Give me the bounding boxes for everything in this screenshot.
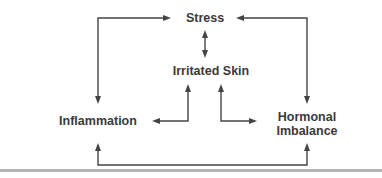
relationship-diagram: Stress Irritated Skin Inflammation Hormo… [0,0,382,178]
edge-stress-irritated-skin [202,30,208,58]
arrowhead-icon [163,15,171,21]
arrowhead-icon [218,84,224,92]
arrowhead-icon [202,30,208,38]
edge-inflammation-hormonal-imbalance [95,143,310,165]
arrowhead-icon [304,143,310,151]
arrowhead-icon [304,96,310,104]
edge-irritated-skin-hormonal-imbalance [218,84,257,124]
node-stress: Stress [186,11,224,25]
arrowhead-icon [249,118,257,124]
separator-line [0,169,382,172]
node-hormonal-imbalance-line2: Imbalance [276,124,337,138]
node-irritated-skin: Irritated Skin [173,64,249,78]
node-inflammation: Inflammation [59,114,137,128]
edge-irritated-skin-inflammation [152,84,191,124]
arrowhead-icon [236,15,244,21]
edge-stress-inflammation [95,15,171,104]
arrowhead-icon [185,84,191,92]
arrowhead-icon [202,50,208,58]
arrowhead-icon [152,118,160,124]
node-hormonal-imbalance-line1: Hormonal [278,110,336,124]
edge-stress-hormonal-imbalance [236,15,310,104]
arrowhead-icon [95,96,101,104]
arrowhead-icon [95,143,101,151]
